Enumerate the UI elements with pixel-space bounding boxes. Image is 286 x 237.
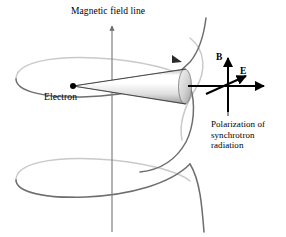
helix-lower-back (16, 159, 190, 181)
cone-body (73, 69, 185, 104)
emission-cone (73, 69, 192, 104)
helix-direction-arrow (172, 55, 182, 63)
e-vector-label: E (240, 66, 246, 77)
electron-label: Electron (44, 92, 77, 103)
vector-triad (188, 58, 264, 116)
helix-near-segments (16, 18, 206, 232)
polarization-caption-line-1: Polarization of (211, 119, 265, 130)
electron-dot (70, 83, 76, 89)
b-vector-label: B (216, 52, 222, 63)
helix-lower-left-light (16, 180, 74, 197)
polarization-caption-line-2: synchrotron (211, 130, 265, 141)
magnetic-field-line-label: Magnetic field line (71, 6, 145, 17)
synchrotron-radiation-figure: Magnetic field line Electron B E Polariz… (0, 0, 286, 237)
polarization-caption-line-3: radiation (211, 140, 265, 151)
helix-lower-tail (190, 164, 204, 232)
polarization-caption: Polarization of synchrotron radiation (211, 119, 265, 151)
